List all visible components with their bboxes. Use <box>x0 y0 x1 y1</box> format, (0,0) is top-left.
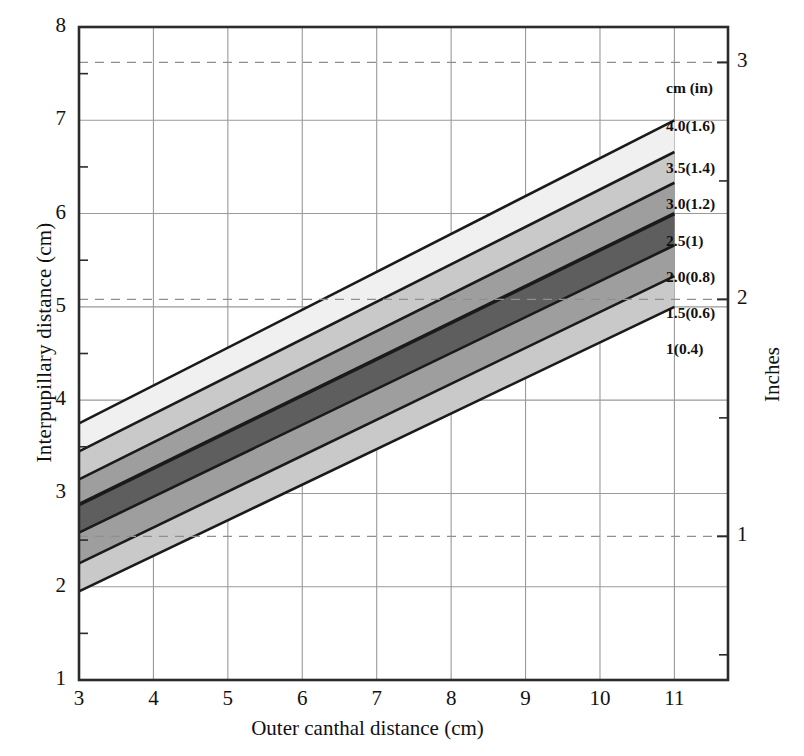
x-tick-label: 10 <box>580 686 620 711</box>
y-tick-label: 5 <box>26 293 66 318</box>
legend-entry: 2.0(0.8) <box>666 269 715 285</box>
y2-tick-label: 2 <box>737 285 767 310</box>
y2-axis-title: Inches <box>760 295 785 455</box>
legend-header: cm (in) <box>666 80 766 96</box>
x-tick-label: 8 <box>431 686 471 711</box>
legend-entry: 3.5(1.4) <box>666 160 715 176</box>
legend-entry: 1.5(0.6) <box>666 305 715 321</box>
x-tick-label: 3 <box>59 686 99 711</box>
y2-axis-title-wrap: Inches <box>752 300 792 460</box>
y2-tick-label: 3 <box>737 48 767 73</box>
legend: cm (in)4.0(1.6)3.5(1.4)3.0(1.2)2.5(1)2.0… <box>666 80 766 108</box>
x-tick-label: 4 <box>133 686 173 711</box>
legend-entry: 4.0(1.6) <box>666 118 715 134</box>
y-tick-label: 4 <box>26 386 66 411</box>
x-tick-label: 7 <box>357 686 397 711</box>
legend-entry: 2.5(1) <box>666 233 703 249</box>
legend-entry: 1(0.4) <box>666 341 703 357</box>
y-tick-label: 6 <box>26 200 66 225</box>
x-tick-label: 6 <box>282 686 322 711</box>
y2-tick-label: 1 <box>737 522 767 547</box>
x-axis-title: Outer canthal distance (cm) <box>79 716 656 741</box>
y-tick-label: 2 <box>26 573 66 598</box>
x-tick-label: 11 <box>654 686 694 711</box>
x-tick-label: 9 <box>506 686 546 711</box>
y-tick-label: 8 <box>26 13 66 38</box>
chart-figure: Interpupillary distance (cm) Outer canth… <box>0 0 804 756</box>
x-tick-label: 5 <box>208 686 248 711</box>
y-tick-label: 3 <box>26 479 66 504</box>
legend-entry: 3.0(1.2) <box>666 196 715 212</box>
y-tick-label: 7 <box>26 106 66 131</box>
y-axis-title: Interpupillary distance (cm) <box>32 213 57 473</box>
nomogram-plot <box>0 0 804 756</box>
